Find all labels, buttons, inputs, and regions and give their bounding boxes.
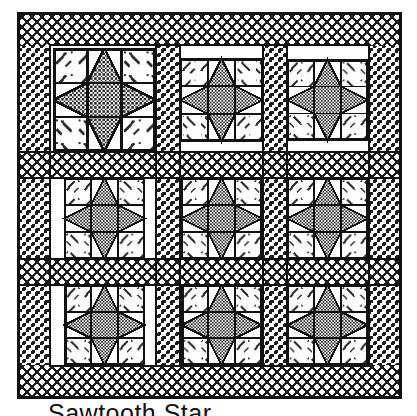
sashing-vertical-1c <box>156 285 180 365</box>
star-block-r2c1 <box>64 178 145 259</box>
border-left <box>20 46 51 365</box>
star-block-r3c1 <box>65 285 145 365</box>
star-block-r2c3 <box>287 178 368 259</box>
sashing-vertical-2c <box>263 285 287 365</box>
star-block-r3c3 <box>288 285 368 365</box>
sashing-horizontal-2 <box>20 259 399 285</box>
star-block-r1c3 <box>287 60 368 141</box>
figure-caption: Sawtooth Star <box>48 400 388 416</box>
sashing-vertical-1a <box>156 46 180 152</box>
sashing-horizontal-1 <box>20 152 399 178</box>
quilt-body <box>17 12 402 399</box>
border-bottom <box>20 365 399 396</box>
sashing-vertical-2b <box>263 178 287 259</box>
sashing-vertical-1b <box>156 178 180 259</box>
star-block-r1c2 <box>180 59 263 142</box>
border-right <box>368 46 399 365</box>
star-block-r3c2 <box>182 285 262 365</box>
quilt-diagram-figure: Sawtooth Star <box>0 0 417 416</box>
star-block-r1c1 <box>53 49 156 152</box>
border-top <box>20 15 399 46</box>
quilt-illustration <box>17 12 402 399</box>
star-block-r2c2 <box>181 178 262 259</box>
sashing-vertical-2a <box>263 46 287 152</box>
